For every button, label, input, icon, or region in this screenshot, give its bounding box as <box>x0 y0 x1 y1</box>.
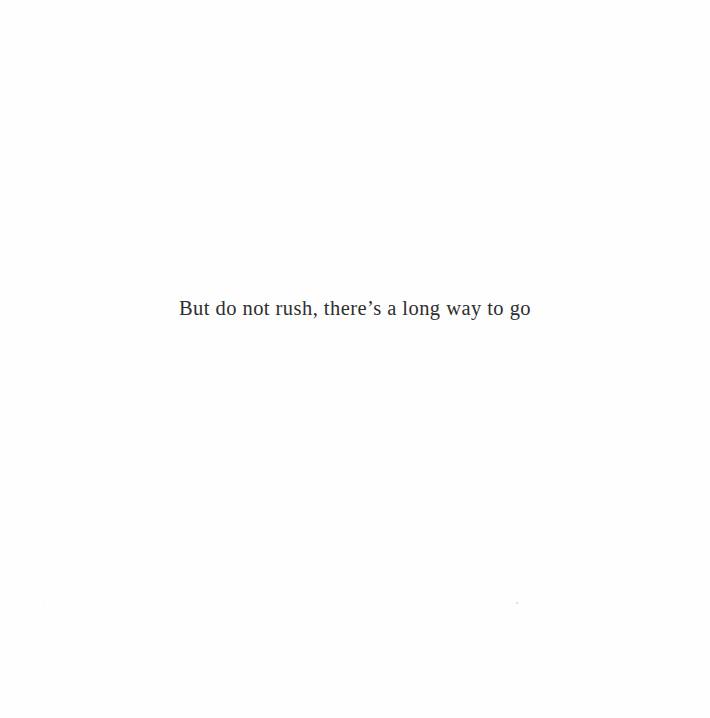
scan-speck <box>44 604 45 605</box>
page-text: But do not rush, there’s a long way to g… <box>0 294 710 322</box>
scan-speck <box>516 602 518 604</box>
book-page: But do not rush, there’s a long way to g… <box>0 0 710 718</box>
